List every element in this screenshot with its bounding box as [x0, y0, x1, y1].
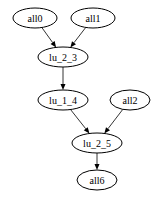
edge-line — [108, 109, 123, 128]
graph-canvas: all0all1lu_2_3lu_1_4all2lu_2_5all6 — [0, 0, 160, 200]
node-label: all2 — [123, 95, 138, 106]
node-label: all0 — [28, 13, 43, 24]
nodes-layer: all0all1lu_2_3lu_1_4all2lu_2_5all6 — [13, 8, 150, 190]
arrowhead-icon — [61, 84, 66, 90]
node-label: lu_2_5 — [83, 138, 111, 149]
edge-lu_2_3-to-lu_1_4 — [61, 67, 66, 90]
edge-line — [74, 27, 86, 42]
arrowhead-icon — [84, 127, 90, 133]
node-lu_2_5: lu_2_5 — [72, 133, 122, 153]
arrowhead-icon — [51, 41, 57, 47]
arrowhead-icon — [104, 127, 110, 133]
edge-lu_1_4-to-lu_2_5 — [71, 110, 90, 134]
node-label: lu_2_3 — [49, 52, 77, 63]
arrowhead-icon — [95, 164, 100, 170]
node-all1: all1 — [71, 8, 115, 28]
node-lu_2_3: lu_2_3 — [38, 47, 88, 67]
node-label: all1 — [86, 13, 101, 24]
node-label: all6 — [90, 175, 105, 186]
edge-all0-to-lu_2_3 — [42, 28, 56, 48]
arrowhead-icon — [70, 41, 76, 47]
node-label: lu_1_4 — [49, 95, 77, 106]
edge-line — [71, 110, 86, 129]
node-all6: all6 — [77, 170, 117, 190]
edge-lu_2_5-to-all6 — [95, 153, 100, 170]
node-lu_1_4: lu_1_4 — [38, 90, 88, 110]
edge-line — [42, 28, 53, 43]
node-all0: all0 — [13, 8, 57, 28]
edge-all1-to-lu_2_3 — [70, 27, 85, 47]
node-all2: all2 — [110, 90, 150, 110]
edge-all2-to-lu_2_5 — [104, 109, 122, 133]
